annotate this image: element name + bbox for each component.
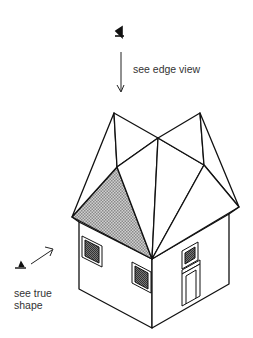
label-see-true: see true: [14, 287, 52, 299]
label-shape: shape: [14, 299, 43, 311]
label-see-edge-view: see edge view: [133, 63, 200, 75]
diagonal-arrow: [31, 247, 53, 264]
down-arrow: [117, 52, 124, 92]
top-eye-icon: [115, 27, 124, 37]
side-eye-icon: [15, 262, 26, 268]
